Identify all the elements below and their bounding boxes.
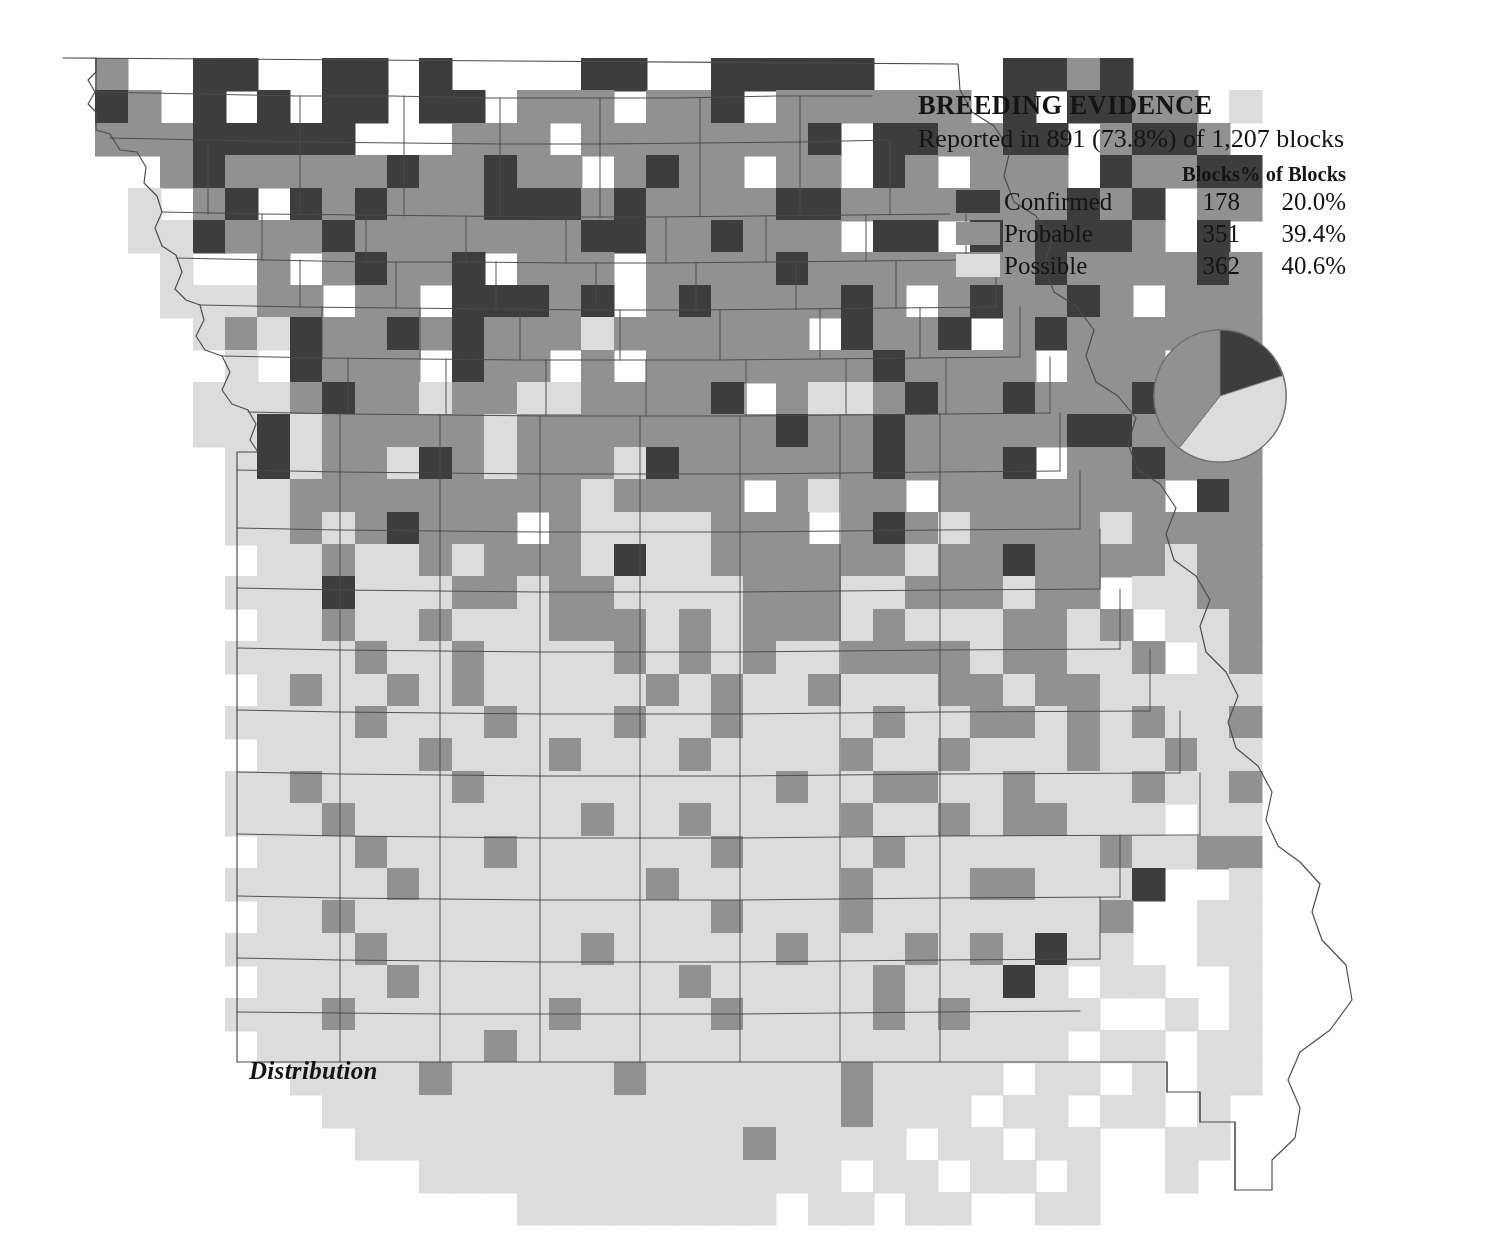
legend-label-confirmed: Confirmed	[1004, 186, 1182, 218]
legend-percent-probable: 39.4%	[1240, 218, 1346, 250]
legend-row-confirmed: Confirmed 178 20.0%	[956, 186, 1346, 218]
legend-panel: BREEDING EVIDENCE Reported in 891 (73.8%…	[918, 92, 1388, 282]
color-swatch-probable	[956, 222, 1000, 245]
legend-blocks-confirmed: 178	[1182, 186, 1240, 218]
legend-blocks-possible: 362	[1182, 250, 1240, 282]
legend-title: BREEDING EVIDENCE	[918, 92, 1388, 120]
legend-blocks-probable: 351	[1182, 218, 1240, 250]
swatch-cell-possible	[956, 250, 1004, 282]
breeding-evidence-pie-chart	[1152, 328, 1288, 464]
swatch-cell-confirmed	[956, 186, 1004, 218]
legend-percent-possible: 40.6%	[1240, 250, 1346, 282]
legend-row-possible: Possible 362 40.6%	[956, 250, 1346, 282]
pie-slices	[1154, 330, 1286, 462]
map-caption: Distribution	[249, 1057, 378, 1085]
legend-table: Blocks % of Blocks Confirmed 178 20.0% P…	[956, 163, 1346, 282]
legend-percent-header: % of Blocks	[1240, 163, 1346, 186]
legend-header-row: Blocks % of Blocks	[956, 163, 1346, 186]
color-swatch-possible	[956, 254, 1000, 277]
swatch-cell-probable	[956, 218, 1004, 250]
legend-percent-confirmed: 20.0%	[1240, 186, 1346, 218]
legend-row-probable: Probable 351 39.4%	[956, 218, 1346, 250]
legend-subtitle: Reported in 891 (73.8%) of 1,207 blocks	[918, 124, 1388, 153]
legend-label-probable: Probable	[1004, 218, 1182, 250]
legend-blocks-header: Blocks	[1182, 163, 1240, 186]
color-swatch-confirmed	[956, 190, 1000, 213]
legend-label-possible: Possible	[1004, 250, 1182, 282]
pie-chart-svg	[1152, 328, 1288, 464]
legend-spacer-header	[956, 163, 1182, 186]
